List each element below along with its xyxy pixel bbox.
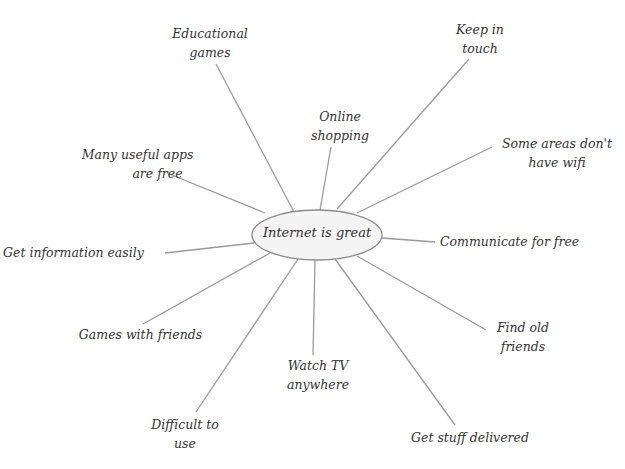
center-topic: Internet is great: [252, 225, 382, 240]
node-keep-in-touch: Keep in touch: [440, 20, 520, 58]
node-difficult-to-use: Difficult to use: [145, 415, 225, 453]
node-text: friends: [488, 337, 558, 356]
connector-some-areas-no-wifi: [357, 147, 492, 213]
node-text: have wifi: [492, 153, 622, 172]
node-some-areas-no-wifi: Some areas don't have wifi: [492, 134, 622, 172]
node-text: games: [160, 43, 260, 62]
node-find-old-friends: Find old friends: [488, 318, 558, 356]
node-games-with-friends: Games with friends: [78, 325, 203, 344]
node-text: Difficult to: [145, 415, 225, 434]
node-text: Games with friends: [78, 325, 203, 344]
node-get-information: Get information easily: [3, 243, 163, 262]
node-text: shopping: [300, 126, 380, 145]
node-text: Online: [300, 107, 380, 126]
node-text: Find old: [488, 318, 558, 337]
node-get-stuff-delivered: Get stuff delivered: [400, 428, 540, 447]
node-communicate-free: Communicate for free: [440, 232, 590, 251]
connector-watch-tv: [313, 260, 315, 355]
node-educational-games: Educational games: [160, 24, 260, 62]
node-many-useful-apps: Many useful apps are free: [80, 145, 195, 183]
connector-get-stuff-delivered: [335, 259, 455, 425]
node-text: touch: [440, 39, 520, 58]
node-text: are free: [80, 164, 195, 183]
node-text: Communicate for free: [440, 232, 590, 251]
node-text: Educational: [160, 24, 260, 43]
connector-find-old-friends: [357, 256, 486, 330]
node-text: Many useful apps: [80, 145, 195, 164]
connector-communicate-free: [382, 238, 435, 242]
node-text: use: [145, 434, 225, 453]
node-online-shopping: Online shopping: [300, 107, 380, 145]
connector-educational-games: [216, 64, 294, 212]
node-watch-tv: Watch TV anywhere: [278, 356, 358, 394]
connector-online-shopping: [320, 147, 331, 210]
connector-games-with-friends: [143, 253, 270, 324]
node-text: Get stuff delivered: [400, 428, 540, 447]
node-text: anywhere: [278, 375, 358, 394]
connector-get-information: [165, 243, 254, 253]
node-text: Get information easily: [3, 243, 163, 262]
node-text: Watch TV: [278, 356, 358, 375]
node-text: Keep in: [440, 20, 520, 39]
node-text: Some areas don't: [492, 134, 622, 153]
